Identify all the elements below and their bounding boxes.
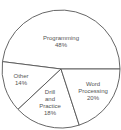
slice-name: Other — [13, 73, 28, 80]
slice-name: Programming — [43, 35, 79, 42]
slice-percent: 14% — [13, 80, 28, 87]
slice-percent: 20% — [78, 95, 108, 102]
slice-name: Practice — [39, 103, 61, 110]
slice-label-other: Other14% — [13, 73, 28, 87]
slice-percent: 48% — [43, 42, 79, 49]
slice-label-drill-and-practice: DrillandPractice18% — [39, 89, 61, 117]
pie-slices — [2, 10, 120, 128]
slice-name: and — [39, 96, 61, 103]
slice-percent: 18% — [39, 110, 61, 117]
slice-name: Drill — [39, 89, 61, 96]
slice-label-word-processing: WordProcessing20% — [78, 81, 108, 102]
slice-label-programming: Programming48% — [43, 35, 79, 49]
slice-name: Word — [78, 81, 108, 88]
slice-name: Processing — [78, 88, 108, 95]
